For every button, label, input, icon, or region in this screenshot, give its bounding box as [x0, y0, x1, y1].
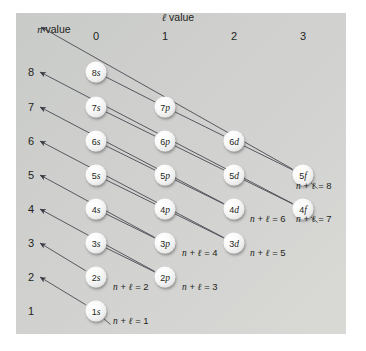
orbital-subshell: s [97, 238, 101, 248]
orbital-subshell: s [97, 136, 101, 146]
orbital-subshell: p [165, 170, 170, 180]
orbital-2s: 2s [86, 267, 107, 288]
n-plus-l-label-3: n + ℓ = 3 [182, 282, 218, 293]
n-plus-l-label-6: n + ℓ = 6 [250, 214, 286, 225]
orbital-subshell: s [97, 306, 101, 316]
n-plus-l-label-7: n + ℓ = 7 [296, 214, 332, 225]
l-value-word: value [166, 11, 194, 23]
row-header-4: 4 [28, 204, 34, 215]
n-plus-l-label-4: n + ℓ = 4 [182, 248, 218, 259]
row-header-7: 7 [28, 102, 34, 113]
row-header-2: 2 [28, 272, 34, 283]
orbital-subshell: d [234, 204, 239, 214]
column-header-1: 1 [162, 31, 168, 42]
row-header-6: 6 [28, 136, 34, 147]
orbital-subshell: d [234, 136, 239, 146]
orbital-subshell: f [304, 170, 306, 180]
orbital-subshell: s [97, 170, 101, 180]
orbital-6p: 6p [155, 131, 176, 152]
row-header-1: 1 [28, 306, 34, 317]
n-plus-l-label-2: n + ℓ = 2 [113, 282, 149, 293]
orbital-3s: 3s [86, 233, 107, 254]
orbital-subshell: p [165, 136, 170, 146]
orbital-8s: 8s [86, 62, 107, 83]
column-header-0: 0 [93, 31, 99, 42]
row-header-3: 3 [28, 238, 34, 249]
n-value-word: value [43, 23, 71, 35]
row-header-5: 5 [28, 170, 34, 181]
column-header-2: 2 [231, 31, 237, 42]
orbital-subshell: p [165, 102, 170, 112]
orbital-subshell: p [165, 238, 170, 248]
orbital-5d: 5d [224, 165, 245, 186]
orbital-3p: 3p [155, 233, 176, 254]
column-header-3: 3 [300, 31, 306, 42]
orbital-subshell: d [234, 238, 239, 248]
orbital-7p: 7p [155, 97, 176, 118]
orbital-subshell: d [234, 170, 239, 180]
orbital-3d: 3d [224, 233, 245, 254]
orbital-subshell: p [165, 204, 170, 214]
n-plus-l-label-1: n + ℓ = 1 [113, 316, 149, 327]
orbital-5p: 5p [155, 165, 176, 186]
orbital-subshell: p [165, 272, 170, 282]
l-value-axis-title: ℓ value [162, 12, 194, 24]
orbital-6d: 6d [224, 131, 245, 152]
n-plus-l-label-8: n + ℓ = 8 [296, 181, 332, 192]
orbital-7s: 7s [86, 97, 107, 118]
orbital-2p: 2p [155, 267, 176, 288]
orbital-filling-diagram: ℓ value n value 0123876543218s7s7p6s6p6d… [0, 0, 366, 351]
row-header-8: 8 [28, 67, 34, 78]
n-value-axis-title: n value [37, 24, 70, 36]
orbital-1s: 1s [86, 301, 107, 322]
orbital-4s: 4s [86, 199, 107, 220]
orbital-subshell: s [97, 102, 101, 112]
orbital-4p: 4p [155, 199, 176, 220]
orbital-subshell: s [97, 204, 101, 214]
orbital-subshell: s [97, 67, 101, 77]
orbital-4d: 4d [224, 199, 245, 220]
orbital-subshell: s [97, 272, 101, 282]
n-plus-l-label-5: n + ℓ = 5 [250, 248, 286, 259]
orbital-6s: 6s [86, 131, 107, 152]
orbital-5s: 5s [86, 165, 107, 186]
